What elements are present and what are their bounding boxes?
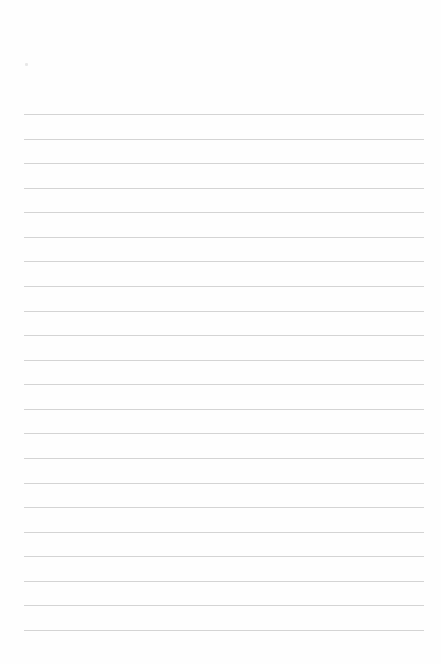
ruled-line: [24, 507, 424, 508]
ruled-line: [24, 212, 424, 213]
ruled-line: [24, 630, 424, 631]
ruled-line: [24, 532, 424, 533]
faint-mark: [25, 63, 28, 66]
ruled-line: [24, 237, 424, 238]
ruled-line: [24, 483, 424, 484]
ruled-line: [24, 433, 424, 434]
ruled-line: [24, 384, 424, 385]
ruled-line: [24, 409, 424, 410]
ruled-line: [24, 335, 424, 336]
ruled-line: [24, 286, 424, 287]
ruled-line: [24, 188, 424, 189]
ruled-line: [24, 261, 424, 262]
lined-paper-page: [0, 0, 441, 664]
ruled-line: [24, 581, 424, 582]
ruled-line: [24, 605, 424, 606]
ruled-line: [24, 556, 424, 557]
ruled-line: [24, 163, 424, 164]
ruled-line: [24, 114, 424, 115]
ruled-line: [24, 311, 424, 312]
ruled-line: [24, 458, 424, 459]
ruled-line: [24, 360, 424, 361]
ruled-line: [24, 139, 424, 140]
